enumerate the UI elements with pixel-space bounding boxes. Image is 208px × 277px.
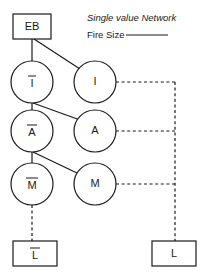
box-l-neg-label: L [32, 249, 38, 261]
node-a-pos[interactable]: A [74, 110, 116, 152]
node-i-neg[interactable]: I [11, 61, 53, 103]
box-l-pos[interactable]: L [152, 241, 196, 266]
node-m-neg-label: M [27, 179, 36, 191]
node-m-pos[interactable]: M [74, 163, 116, 205]
network-diagram-svg: EB L L I I A A [0, 0, 208, 277]
node-m-neg[interactable]: M [11, 163, 53, 205]
box-l-pos-label: L [171, 247, 177, 259]
node-a-pos-label: A [91, 124, 99, 136]
node-i-pos[interactable]: I [74, 61, 116, 103]
diagram-canvas: EB L L I I A A [0, 0, 208, 277]
box-l-neg[interactable]: L [13, 241, 57, 266]
node-a-neg[interactable]: A [11, 110, 53, 152]
node-i-neg-label: I [30, 77, 33, 89]
box-eb-label: EB [25, 20, 40, 32]
node-m-pos-label: M [90, 177, 99, 189]
node-i-pos-label: I [93, 75, 96, 87]
legend-label: Fire Size [87, 29, 124, 40]
box-eb[interactable]: EB [13, 14, 51, 39]
diagram-title: Single value Network [87, 12, 177, 23]
solid-edge-group [32, 39, 80, 174]
node-a-neg-label: A [28, 126, 36, 138]
